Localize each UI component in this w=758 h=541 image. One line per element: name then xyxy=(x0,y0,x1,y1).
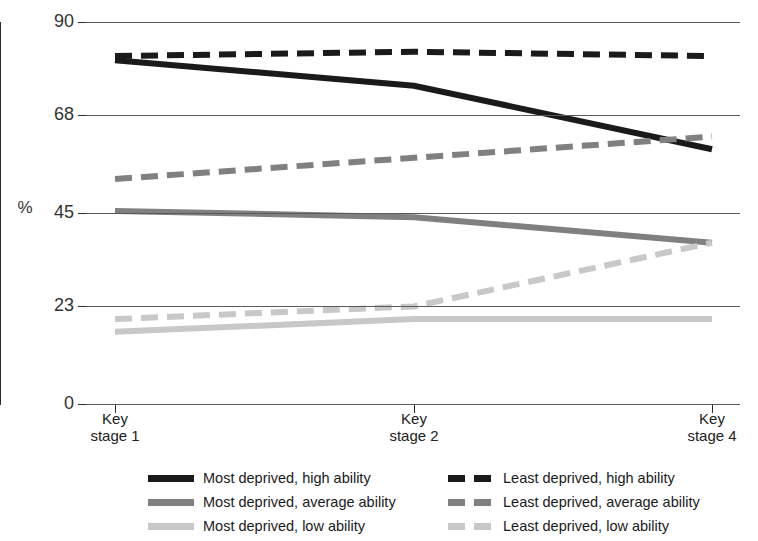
legend-swatch xyxy=(148,475,194,482)
x-tick-label: Keystage 1 xyxy=(55,410,175,444)
series-line xyxy=(115,137,712,179)
gridline xyxy=(85,115,740,116)
legend-label: Least deprived, low ability xyxy=(503,518,669,534)
series-line xyxy=(115,243,712,319)
legend-swatch xyxy=(148,499,194,506)
y-tick-mark xyxy=(78,213,86,214)
gridline xyxy=(85,404,740,405)
series-line xyxy=(115,52,712,56)
y-tick-label: 23 xyxy=(28,295,74,316)
y-tick-mark xyxy=(78,115,86,116)
legend-label: Most deprived, low ability xyxy=(203,518,365,534)
legend-label: Most deprived, high ability xyxy=(203,470,371,486)
legend-item: Most deprived, low ability xyxy=(148,514,448,538)
legend-swatch xyxy=(448,475,494,482)
y-axis-line xyxy=(0,22,1,405)
gridline xyxy=(85,306,740,307)
chart-legend: Most deprived, high abilityMost deprived… xyxy=(148,466,748,538)
legend-item: Most deprived, high ability xyxy=(148,466,448,490)
legend-item: Least deprived, high ability xyxy=(448,466,748,490)
y-tick-mark xyxy=(78,306,86,307)
y-axis-ticks: 906845230 xyxy=(0,0,74,541)
x-tick-label: Keystage 4 xyxy=(652,410,758,444)
legend-item: Most deprived, average ability xyxy=(148,490,448,514)
series-line xyxy=(115,60,712,149)
legend-swatch xyxy=(448,499,494,506)
legend-item: Least deprived, average ability xyxy=(448,490,748,514)
legend-column-least-deprived: Least deprived, high abilityLeast depriv… xyxy=(448,466,748,538)
y-tick-label: 90 xyxy=(28,11,74,32)
y-tick-mark xyxy=(78,404,86,405)
y-tick-mark xyxy=(78,22,86,23)
chart-container: % 906845230 Keystage 1Keystage 2Keystage… xyxy=(0,0,758,541)
legend-swatch xyxy=(148,523,194,530)
legend-label: Least deprived, high ability xyxy=(503,470,675,486)
series-line xyxy=(115,319,712,332)
legend-label: Most deprived, average ability xyxy=(203,494,396,510)
legend-column-most-deprived: Most deprived, high abilityMost deprived… xyxy=(148,466,448,538)
legend-label: Least deprived, average ability xyxy=(503,494,700,510)
gridline xyxy=(85,213,740,214)
plot-area xyxy=(85,22,740,404)
x-tick-label: Keystage 2 xyxy=(354,410,474,444)
y-tick-label: 68 xyxy=(28,104,74,125)
y-tick-label: 45 xyxy=(28,202,74,223)
legend-swatch xyxy=(448,523,494,530)
series-line xyxy=(115,211,712,243)
legend-item: Least deprived, low ability xyxy=(448,514,748,538)
gridline xyxy=(85,22,740,23)
